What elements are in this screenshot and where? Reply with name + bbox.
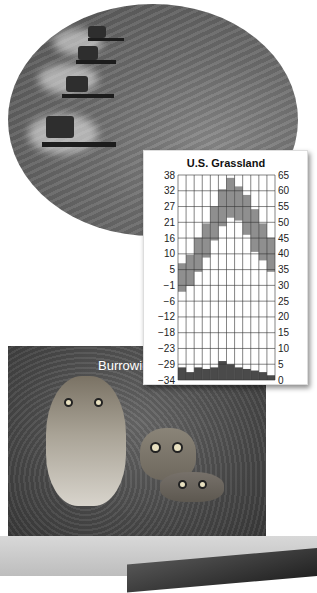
left-tick-label: 38 [164, 170, 176, 181]
left-tick-label: 16 [164, 233, 176, 244]
left-tick-label: −1 [164, 280, 176, 291]
temperature-bar [210, 206, 218, 240]
climatogram-card: U.S. Grassland38653260275521501645104053… [143, 150, 308, 385]
left-tick-label: −29 [158, 359, 175, 370]
temperature-bar [218, 189, 226, 226]
right-tick-label: 15 [278, 327, 290, 338]
right-tick-label: 50 [278, 217, 290, 228]
climatogram-chart: U.S. Grassland38653260275521501645104053… [144, 151, 307, 384]
left-tick-label: 27 [164, 201, 176, 212]
right-tick-label: 45 [278, 233, 290, 244]
precipitation-bar [259, 372, 267, 380]
left-tick-label: −18 [158, 327, 175, 338]
left-tick-label: −12 [158, 311, 175, 322]
temperature-bar [267, 238, 275, 272]
left-tick-label: 32 [164, 185, 176, 196]
right-tick-label: 10 [278, 343, 290, 354]
temperature-bar [186, 255, 194, 286]
right-tick-label: 55 [278, 201, 290, 212]
precipitation-bar [218, 361, 226, 380]
temperature-bar [235, 186, 243, 220]
precipitation-bar [194, 367, 202, 380]
right-tick-label: 20 [278, 311, 290, 322]
precipitation-bar [178, 367, 186, 380]
temperature-bar [178, 263, 186, 291]
temperature-bar [194, 238, 202, 272]
temperature-bar [251, 209, 259, 252]
right-tick-label: 60 [278, 185, 290, 196]
left-tick-label: −23 [158, 343, 175, 354]
right-tick-label: 35 [278, 264, 290, 275]
left-tick-label: 10 [164, 248, 176, 259]
right-tick-label: 30 [278, 280, 290, 291]
precipitation-bar [202, 369, 210, 380]
precipitation-bar [210, 367, 218, 380]
temperature-bar [227, 178, 235, 218]
precipitation-bar [235, 367, 243, 380]
right-tick-label: 65 [278, 170, 290, 181]
right-tick-label: 0 [278, 375, 284, 385]
temperature-bar [202, 223, 210, 257]
precipitation-bar [186, 372, 194, 380]
left-tick-label: 21 [164, 217, 176, 228]
precipitation-bar [227, 364, 235, 380]
chart-title: U.S. Grassland [187, 157, 265, 169]
left-tick-label: −34 [158, 375, 175, 385]
right-tick-label: 25 [278, 296, 290, 307]
right-tick-label: 5 [278, 359, 284, 370]
temperature-bar [243, 195, 251, 235]
temperature-bar [259, 223, 267, 260]
left-tick-label: 5 [169, 264, 175, 275]
adult-owl [46, 376, 126, 506]
precipitation-bar [243, 369, 251, 380]
right-tick-label: 40 [278, 248, 290, 259]
left-tick-label: −6 [164, 296, 176, 307]
precipitation-bar [267, 375, 275, 380]
hiding-owl [160, 472, 224, 502]
precipitation-bar [251, 371, 259, 380]
